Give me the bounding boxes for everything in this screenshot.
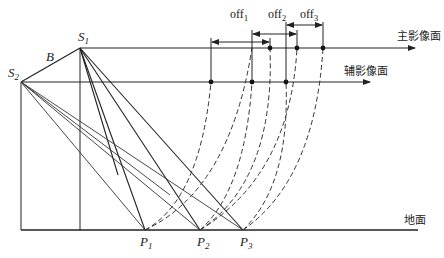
projection-arcs <box>145 48 323 230</box>
offset-markers <box>211 22 323 82</box>
s2-rays <box>21 82 243 230</box>
s2-label: S2 <box>8 65 20 82</box>
main-image-plane-label: 主影像面 <box>397 30 441 43</box>
p1-label: P1 <box>139 234 152 251</box>
aux-image-plane-label: 辅影像面 <box>344 64 388 78</box>
off1-label: off1 <box>230 7 248 23</box>
intersection-dots <box>209 46 326 85</box>
off3-label: off3 <box>300 7 319 23</box>
ground-label: 地面 <box>404 214 426 227</box>
p3-label: P3 <box>239 234 253 251</box>
s1-rays <box>80 48 243 230</box>
s1-label: S1 <box>78 29 89 46</box>
baseline-label: B <box>46 49 54 64</box>
off2-label: off2 <box>268 7 286 23</box>
p2-label: P2 <box>196 234 210 251</box>
geometry-diagram: S1 S2 B P1 P2 P3 off1 off2 off3 主影像面 辅影像… <box>0 0 444 258</box>
